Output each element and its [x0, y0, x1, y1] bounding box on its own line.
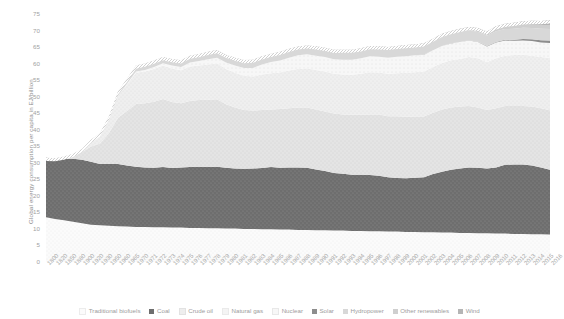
y-tick-label: 30: [33, 160, 40, 166]
y-tick-label: 55: [33, 77, 40, 83]
legend-item[interactable]: Other renewables: [393, 308, 449, 314]
legend-label: Coal: [157, 308, 170, 314]
plot-svg: [46, 14, 550, 262]
legend-label: Hydropower: [350, 308, 383, 314]
legend-label: Natural gas: [231, 308, 263, 314]
y-axis-ticks: 051015202530354045505560657075: [0, 14, 44, 262]
legend-swatch-icon: [179, 308, 186, 315]
legend-item[interactable]: Natural gas: [222, 308, 263, 315]
y-tick-label: 60: [33, 60, 40, 66]
legend-label: Wind: [466, 308, 480, 314]
legend-swatch-icon: [272, 308, 279, 315]
legend-swatch-icon: [393, 309, 398, 314]
y-tick-label: 75: [33, 11, 40, 17]
legend-swatch-icon: [149, 309, 154, 314]
chart-legend: Traditional biofuelsCoalCrude oilNatural…: [0, 308, 559, 315]
y-tick-label: 50: [33, 94, 40, 100]
legend-swatch-icon: [222, 308, 229, 315]
legend-item[interactable]: Nuclear: [272, 308, 303, 315]
legend-swatch-icon: [458, 309, 463, 314]
y-tick-label: 40: [33, 127, 40, 133]
y-tick-label: 25: [33, 176, 40, 182]
legend-swatch-icon: [343, 309, 348, 314]
legend-swatch-icon: [79, 308, 86, 315]
y-tick-label: 15: [33, 209, 40, 215]
x-axis-ticks: 1800182018501880190019201930195019601965…: [46, 262, 550, 292]
legend-label: Nuclear: [282, 308, 303, 314]
legend-label: Traditional biofuels: [89, 308, 141, 314]
legend-item[interactable]: Wind: [458, 308, 480, 314]
legend-item[interactable]: Hydropower: [343, 308, 384, 314]
y-tick-label: 10: [33, 226, 40, 232]
legend-label: Solar: [319, 308, 333, 314]
y-tick-label: 65: [33, 44, 40, 50]
y-tick-label: 20: [33, 193, 40, 199]
y-tick-label: 5: [37, 242, 40, 248]
y-tick-label: 45: [33, 110, 40, 116]
legend-item[interactable]: Traditional biofuels: [79, 308, 140, 315]
y-tick-label: 0: [37, 259, 40, 265]
y-tick-label: 35: [33, 143, 40, 149]
legend-swatch-icon: [312, 309, 317, 314]
legend-item[interactable]: Crude oil: [179, 308, 213, 315]
legend-item[interactable]: Coal: [149, 308, 169, 314]
plot-area: [46, 14, 550, 262]
legend-label: Crude oil: [188, 308, 213, 314]
legend-label: Other renewables: [400, 308, 449, 314]
y-tick-label: 70: [33, 27, 40, 33]
legend-item[interactable]: Solar: [312, 308, 334, 314]
area-series: [46, 158, 550, 235]
